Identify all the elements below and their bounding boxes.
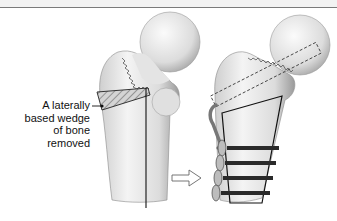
femur-after	[210, 15, 330, 203]
annotation-line-1: A laterally	[8, 99, 90, 112]
screw-1	[227, 146, 279, 150]
screw-3	[223, 176, 273, 180]
arrow-right-icon	[172, 170, 201, 186]
annotation-line-2: based wedge	[8, 112, 90, 125]
femur-after-head	[270, 15, 330, 75]
femur-before-greater-trochanter-bump	[152, 88, 180, 116]
screw-4	[221, 191, 270, 195]
annotation-line-3: of bone	[8, 124, 90, 137]
screw-2	[225, 161, 276, 165]
annotation-line-4: removed	[8, 137, 90, 150]
transition-arrow	[172, 170, 201, 186]
wedge-annotation-label: A laterally based wedge of bone removed	[8, 99, 90, 149]
femur-before-shaft	[100, 51, 180, 202]
